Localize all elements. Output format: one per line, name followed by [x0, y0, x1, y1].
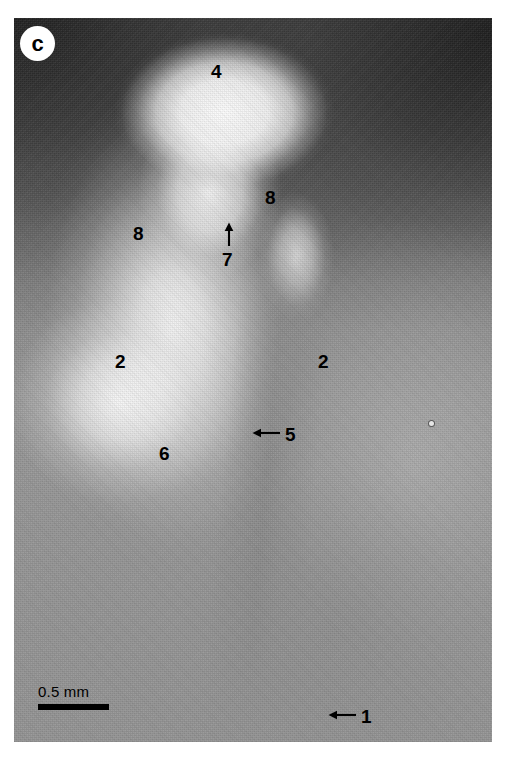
halftone-texture — [14, 18, 492, 742]
annotation-label-4: 4 — [211, 62, 222, 81]
tissue-lobe-right — [14, 18, 492, 742]
vignette-top-right — [14, 18, 492, 742]
tissue-shoulder-lower-left — [14, 18, 492, 742]
scale-bar-line — [38, 704, 109, 710]
arrow-up-icon-7 — [223, 222, 235, 246]
tissue-shadow-bottom-right — [14, 18, 492, 742]
annotation-label-2-left: 2 — [115, 352, 126, 371]
annotation-label-2-right: 2 — [318, 352, 329, 371]
dust-speck-artifact — [429, 421, 434, 426]
tissue-central-seam — [14, 18, 492, 742]
tissue-dome-apical — [14, 18, 492, 742]
annotation-label-8-right: 8 — [265, 188, 276, 207]
annotation-label-8-left: 8 — [133, 224, 144, 243]
tissue-mass-right — [14, 18, 492, 742]
arrow-left-icon-1 — [328, 709, 356, 721]
micrograph-image — [14, 18, 492, 742]
annotation-label-1: 1 — [361, 707, 372, 726]
scale-bar: 0.5 mm — [38, 684, 109, 710]
arrow-left-icon-5 — [252, 427, 280, 439]
bottom-gradient-fade — [14, 18, 492, 742]
annotation-label-7: 7 — [222, 250, 233, 269]
scale-bar-label: 0.5 mm — [38, 684, 109, 699]
tissue-shaft-central — [14, 18, 492, 742]
annotation-label-5: 5 — [285, 425, 296, 444]
figure-panel: c 4 8 8 7 2 2 6 5 1 0.5 mm — [0, 0, 506, 766]
panel-label: c — [20, 26, 55, 61]
background-dark-field — [14, 18, 492, 742]
annotation-label-6: 6 — [159, 444, 170, 463]
tissue-neck — [14, 18, 492, 742]
vignette-top-left — [14, 18, 492, 742]
film-grain-texture — [14, 18, 492, 742]
